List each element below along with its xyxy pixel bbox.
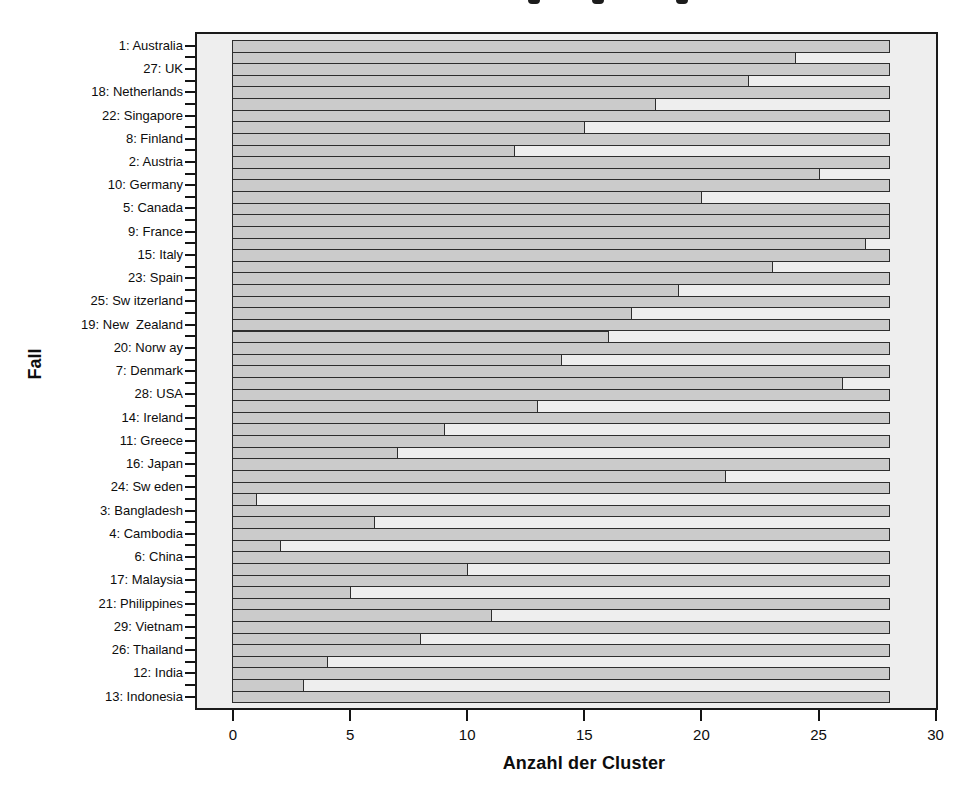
x-tick-label: 25 — [797, 726, 841, 743]
y-tick — [185, 626, 195, 628]
y-tick — [185, 521, 195, 523]
y-tick — [185, 405, 195, 407]
y-tick — [185, 614, 195, 616]
y-tick — [185, 475, 195, 477]
y-axis-label: 21: Philippines — [0, 597, 183, 611]
y-axis-label: 5: Canada — [0, 201, 183, 215]
y-tick — [185, 544, 195, 546]
y-tick — [185, 115, 195, 117]
y-tick — [185, 219, 195, 221]
y-axis-label: 19: New Zealand — [0, 318, 183, 332]
y-axis-label: 11: Greece — [0, 434, 183, 448]
y-axis-label: 18: Netherlands — [0, 85, 183, 99]
x-axis-title: Anzahl der Cluster — [434, 753, 734, 774]
y-axis-label: 7: Denmark — [0, 364, 183, 378]
y-axis-label: 20: Norw ay — [0, 341, 183, 355]
x-tick-label: 5 — [328, 726, 372, 743]
x-tick-label: 0 — [211, 726, 255, 743]
y-tick — [185, 335, 195, 337]
y-tick — [185, 231, 195, 233]
y-tick — [185, 45, 195, 47]
y-axis-label: 28: USA — [0, 387, 183, 401]
y-axis-label: 4: Cambodia — [0, 527, 183, 541]
y-tick — [185, 417, 195, 419]
y-tick — [185, 312, 195, 314]
y-tick — [185, 126, 195, 128]
x-tick — [935, 710, 937, 721]
y-axis-label: 29: Vietnam — [0, 620, 183, 634]
x-tick-label: 20 — [679, 726, 723, 743]
x-tick-label: 10 — [445, 726, 489, 743]
x-tick — [818, 710, 820, 721]
y-axis-label: 13: Indonesia — [0, 690, 183, 704]
y-tick — [185, 91, 195, 93]
y-tick — [185, 684, 195, 686]
y-tick — [185, 696, 195, 698]
y-axis-label: 8: Finland — [0, 132, 183, 146]
y-tick — [185, 289, 195, 291]
y-axis-label: 24: Sw eden — [0, 480, 183, 494]
x-tick — [232, 710, 234, 721]
y-tick — [185, 207, 195, 209]
y-tick — [185, 324, 195, 326]
cropped-title-descender — [592, 0, 604, 4]
icicle-cluster-chart: Fall 1: Australia27: UK18: Netherlands22… — [0, 0, 965, 786]
y-tick — [185, 428, 195, 430]
y-tick — [185, 266, 195, 268]
case-bar — [232, 482, 890, 495]
y-tick — [185, 300, 195, 302]
y-tick — [185, 603, 195, 605]
y-tick — [185, 242, 195, 244]
case-bar — [232, 691, 890, 704]
y-tick — [185, 510, 195, 512]
y-tick — [185, 568, 195, 570]
y-tick — [185, 103, 195, 105]
y-tick — [185, 591, 195, 593]
x-tick — [466, 710, 468, 721]
y-tick — [185, 254, 195, 256]
y-tick — [185, 463, 195, 465]
y-axis-label: 14: Ireland — [0, 411, 183, 425]
y-axis-label: 15: Italy — [0, 248, 183, 262]
y-axis-label: 16: Japan — [0, 457, 183, 471]
y-tick — [185, 637, 195, 639]
case-bar — [232, 644, 890, 657]
y-tick — [185, 486, 195, 488]
y-tick — [185, 452, 195, 454]
y-tick — [185, 498, 195, 500]
x-tick — [583, 710, 585, 721]
cropped-title-descender — [528, 0, 540, 4]
y-axis-label: 2: Austria — [0, 155, 183, 169]
y-axis-label: 17: Malaysia — [0, 573, 183, 587]
y-tick — [185, 649, 195, 651]
y-axis-label: 6: China — [0, 550, 183, 564]
y-tick — [185, 68, 195, 70]
x-tick-label: 15 — [562, 726, 606, 743]
y-axis-label: 26: Thailand — [0, 643, 183, 657]
y-tick — [185, 661, 195, 663]
x-tick — [349, 710, 351, 721]
y-tick — [185, 80, 195, 82]
case-bar — [232, 667, 890, 680]
y-axis-label: 12: India — [0, 666, 183, 680]
y-tick — [185, 347, 195, 349]
y-tick — [185, 149, 195, 151]
y-tick — [185, 184, 195, 186]
x-tick — [700, 710, 702, 721]
y-axis-label: 27: UK — [0, 62, 183, 76]
y-axis-label: 22: Singapore — [0, 109, 183, 123]
y-tick — [185, 56, 195, 58]
cropped-title-descender — [676, 0, 688, 4]
y-axis-label: 23: Spain — [0, 271, 183, 285]
case-bar — [232, 528, 890, 541]
y-tick — [185, 370, 195, 372]
y-axis-label: 1: Australia — [0, 39, 183, 53]
y-tick — [185, 138, 195, 140]
y-axis-label: 10: Germany — [0, 178, 183, 192]
y-tick — [185, 440, 195, 442]
y-tick — [185, 277, 195, 279]
y-axis-label: 25: Sw itzerland — [0, 294, 183, 308]
y-tick — [185, 393, 195, 395]
y-tick — [185, 173, 195, 175]
y-tick — [185, 533, 195, 535]
